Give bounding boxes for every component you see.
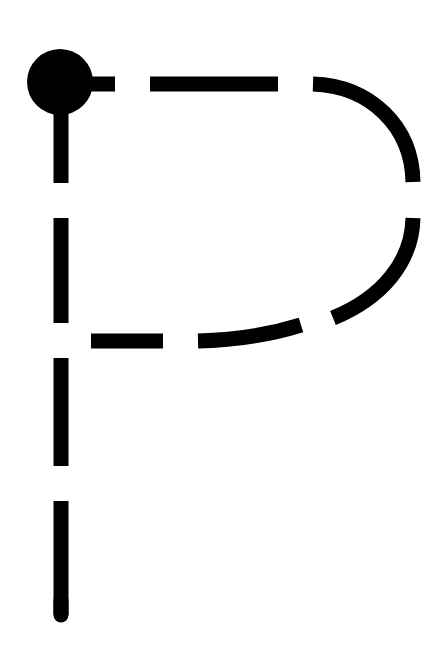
tracing-canvas: Letter P tracing guide (0, 0, 441, 664)
bowl-dash (198, 325, 301, 341)
letter-p-tracing-diagram (0, 0, 441, 664)
bowl-dash (313, 84, 413, 182)
bowl-stroke (91, 84, 413, 341)
bowl-dash (333, 218, 413, 318)
